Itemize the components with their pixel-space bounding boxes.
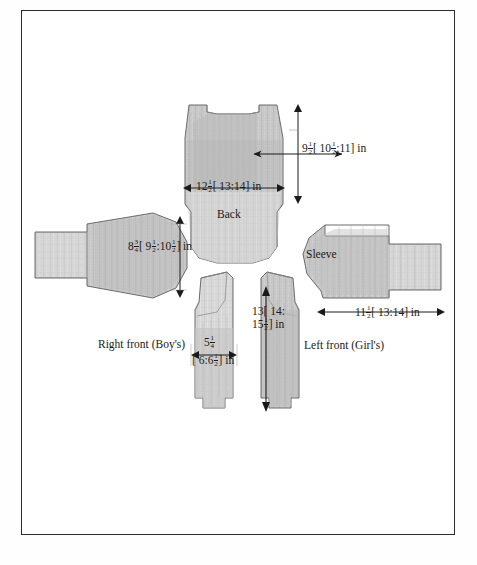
dimension-label-front-length: 13[ 14: 1512] in	[252, 305, 285, 331]
dimension-label-front-width-top: 514	[204, 335, 215, 349]
front-length-line-1: 13[ 14:	[252, 305, 285, 317]
pattern-piece-sleeve-left	[35, 213, 187, 298]
front-length-line-2: 1512] in	[252, 317, 285, 331]
dimension-label-front-width-bottom: [ 6:612] in	[192, 353, 234, 367]
piece-label-left-front: Left front (Girl's)	[304, 339, 384, 351]
page-canvas: 912[ 1012:11] in 1212[ 13:14] in Back 83…	[0, 0, 477, 565]
piece-label-back: Back	[217, 208, 241, 220]
pattern-piece-sleeve-right	[303, 225, 441, 298]
pattern-layout-diagram	[21, 10, 455, 535]
piece-label-sleeve: Sleeve	[306, 248, 337, 260]
dimension-label-back-width: 1212[ 13:14] in	[196, 179, 261, 193]
piece-label-right-front: Right front (Boy's)	[98, 338, 185, 350]
dimension-label-sleeve-width: 1112[ 13:14] in	[355, 305, 420, 319]
dimension-label-back-height: 912[ 1012:11] in	[302, 141, 366, 155]
dimension-label-sleeve-height: 834[ 912:1012] in	[128, 239, 192, 253]
